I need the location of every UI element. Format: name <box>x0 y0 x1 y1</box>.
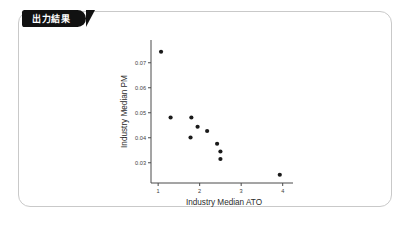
data-point <box>218 149 222 153</box>
output-result-card: 0.030.040.050.060.071234Industry Median … <box>18 11 392 207</box>
data-point <box>278 173 282 177</box>
data-point <box>159 50 163 54</box>
y-axis-tick-label: 0.05 <box>135 110 146 116</box>
data-point <box>169 115 173 119</box>
x-axis-title: Industry Median ATO <box>186 198 262 207</box>
y-axis-tick-label: 0.04 <box>135 135 146 141</box>
data-point <box>188 135 192 139</box>
data-point <box>189 115 193 119</box>
data-point <box>215 142 219 146</box>
badge-tail-shape <box>86 10 95 27</box>
y-axis-tick-label: 0.03 <box>135 160 146 166</box>
y-axis-tick-label: 0.06 <box>135 85 146 91</box>
data-point <box>205 129 209 133</box>
output-result-badge-label: 出力結果 <box>32 12 70 25</box>
y-axis-title: Industry Median PM <box>120 75 129 148</box>
data-point <box>195 125 199 129</box>
output-result-badge: 出力結果 <box>22 10 86 27</box>
scatter-plot: 0.030.040.050.060.071234Industry Median … <box>19 12 393 208</box>
x-axis-tick-label: 1 <box>157 188 160 194</box>
data-point <box>218 157 222 161</box>
screenshot-root: 0.030.040.050.060.071234Industry Median … <box>0 0 411 225</box>
x-axis-tick-label: 3 <box>240 188 243 194</box>
y-axis-tick-label: 0.07 <box>135 60 146 66</box>
x-axis-tick-label: 4 <box>281 188 284 194</box>
x-axis-tick-label: 2 <box>198 188 201 194</box>
scatter-plot-canvas: 0.030.040.050.060.071234Industry Median … <box>19 12 393 208</box>
